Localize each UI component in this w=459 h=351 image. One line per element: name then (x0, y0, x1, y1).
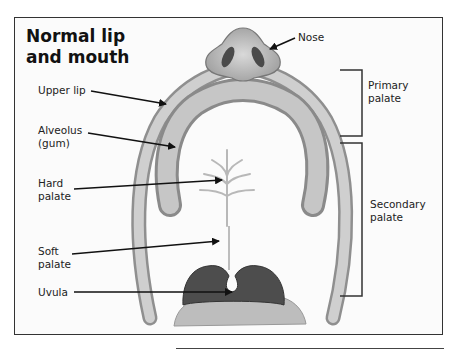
primary-palate-bracket (340, 70, 362, 136)
nose-shape (206, 28, 281, 81)
label-secondary-palate: Secondary palate (370, 198, 426, 224)
label-upper-lip: Upper lip (38, 84, 86, 97)
title-line-2: and mouth (26, 47, 129, 68)
label-primary-palate-line-2: palate (368, 92, 409, 105)
nose-arrow (270, 38, 295, 49)
label-soft-palate-line-2: palate (38, 258, 71, 271)
label-hard-palate: Hard palate (38, 177, 71, 203)
label-hard-palate-line-2: palate (38, 190, 71, 203)
uvula-shape (174, 266, 306, 326)
label-nose: Nose (298, 31, 324, 44)
label-primary-palate-line-1: Primary (368, 79, 409, 92)
label-alveolus-line-2: (gum) (38, 137, 82, 150)
label-secondary-palate-line-1: Secondary (370, 198, 426, 211)
upper-lip-arrow (91, 91, 166, 104)
label-secondary-palate-line-2: palate (370, 211, 426, 224)
alveolus-shape (167, 90, 318, 205)
title-line-1: Normal lip (26, 26, 129, 47)
label-soft-palate-line-1: Soft (38, 245, 71, 258)
label-alveolus-line-1: Alveolus (38, 124, 82, 137)
diagram-title: Normal lip and mouth (26, 26, 129, 68)
label-uvula: Uvula (38, 286, 68, 299)
label-soft-palate: Soft palate (38, 245, 71, 271)
label-alveolus: Alveolus (gum) (38, 124, 82, 150)
label-primary-palate: Primary palate (368, 79, 409, 105)
hard-palate-shape (200, 150, 254, 226)
label-hard-palate-line-1: Hard (38, 177, 71, 190)
